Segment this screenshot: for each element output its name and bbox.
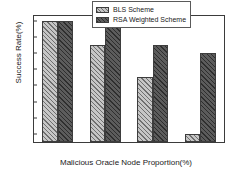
y-tick-mark: [34, 101, 37, 102]
x-tick-label: 10: [54, 142, 62, 143]
bar-rsa-10: [58, 21, 74, 142]
legend-label-bls: BLS Scheme: [113, 6, 154, 14]
legend-label-rsa: RSA Weighted Scheme: [113, 16, 186, 24]
bar-chart-figure: Success Rate(%) Malicious Oracle Node Pr…: [0, 0, 233, 172]
y-axis-title: Success Rate(%): [14, 0, 23, 108]
y-tick-mark: [34, 117, 37, 118]
bar-bls-20: [90, 45, 106, 142]
legend-item-bls: BLS Scheme: [96, 5, 186, 14]
x-axis-title: Malicious Oracle Node Proportion(%): [22, 158, 230, 167]
x-tick-label: 40: [196, 142, 204, 143]
chart-legend: BLS Scheme RSA Weighted Scheme: [92, 1, 191, 28]
bar-rsa-30: [153, 45, 169, 142]
bar-rsa-20: [105, 21, 121, 142]
bar-rsa-40: [200, 53, 216, 142]
legend-swatch-bls-icon: [96, 7, 109, 13]
y-tick-mark: [34, 20, 37, 21]
y-tick-mark: [34, 37, 37, 38]
bar-bls-40: [185, 134, 201, 142]
x-tick-label: 30: [149, 142, 157, 143]
legend-item-rsa: RSA Weighted Scheme: [96, 15, 186, 24]
plot-area: 86889092949698100 10203040: [33, 15, 225, 143]
x-tick-label: 20: [101, 142, 109, 143]
legend-swatch-rsa-icon: [96, 17, 109, 23]
y-tick-mark: [34, 69, 37, 70]
y-tick-mark: [34, 53, 37, 54]
bar-bls-10: [42, 21, 58, 142]
y-tick-mark: [34, 85, 37, 86]
y-tick-mark: [34, 133, 37, 134]
bar-bls-30: [137, 77, 153, 142]
